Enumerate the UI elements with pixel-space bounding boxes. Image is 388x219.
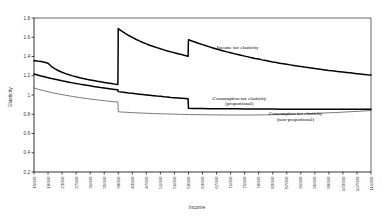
x-tick-label: 95000 (312, 176, 317, 189)
y-tick-label: 1.6 (24, 35, 31, 40)
annotation-group: Income tax elasticityConsumption tax ela… (213, 45, 323, 122)
x-tick-label: 79000 (256, 176, 261, 189)
x-tick-label: 47000 (144, 176, 149, 189)
y-tick-label: 1.8 (24, 16, 31, 21)
x-tick-label: 107000 (355, 176, 360, 191)
y-tick-label: 0.2 (24, 170, 31, 175)
x-tick-label: 55000 (172, 176, 177, 189)
series-annotation: Income tax elasticity (217, 45, 259, 50)
series-annotation: (proportional) (225, 101, 253, 106)
x-tick-label: 75000 (242, 176, 247, 189)
x-tick-label: 51000 (158, 176, 163, 189)
y-tick-label: 0.4 (24, 150, 31, 155)
series-annotation: (non-proportional) (277, 117, 315, 122)
x-tick-label: 43000 (130, 176, 135, 189)
series-line (34, 29, 371, 85)
x-tick-label: 103000 (341, 176, 346, 191)
x-tick-label: 35000 (102, 176, 107, 189)
x-tick-label: 67000 (214, 176, 219, 189)
x-tick-label: 31000 (88, 176, 93, 189)
x-tick-label: 59000 (186, 176, 191, 189)
x-tick-label: 87000 (284, 176, 289, 189)
x-tick-label: 23000 (60, 176, 65, 189)
x-axis-tick-group: 1500019000230002700031000350003900043000… (32, 172, 374, 191)
elasticity-line-chart: 0.20.40.60.811.21.41.61.8 15000190002300… (0, 0, 388, 219)
series-annotation: Consumption tax elasticity (269, 111, 323, 116)
axis-lines (34, 18, 371, 172)
x-tick-label: 71000 (228, 176, 233, 189)
series-annotation: Consumption tax elasticity (213, 96, 267, 101)
y-tick-label: 1.4 (24, 54, 31, 59)
x-tick-label: 15000 (32, 176, 37, 189)
y-tick-label: 0.8 (24, 112, 31, 117)
series-group (34, 29, 371, 115)
x-tick-label: 99000 (326, 176, 331, 189)
y-tick-label: 1 (27, 93, 30, 98)
chart-container: 0.20.40.60.811.21.41.61.8 15000190002300… (0, 0, 388, 219)
y-tick-label: 0.6 (24, 131, 31, 136)
y-axis-title: Elasticity (7, 87, 13, 107)
x-tick-label: 111000 (369, 176, 374, 191)
x-tick-label: 83000 (270, 176, 275, 189)
y-tick-label: 1.2 (24, 73, 31, 78)
x-tick-label: 63000 (200, 176, 205, 189)
x-tick-label: 27000 (74, 176, 79, 189)
x-tick-label: 19000 (46, 176, 51, 189)
x-tick-label: 39000 (116, 176, 121, 189)
x-axis-title: Income (189, 204, 206, 210)
x-tick-label: 91000 (298, 176, 303, 189)
y-axis-tick-group: 0.20.40.60.811.21.41.61.8 (24, 16, 34, 175)
